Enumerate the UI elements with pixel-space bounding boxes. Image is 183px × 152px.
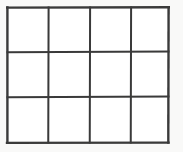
grid-cell	[132, 9, 168, 52]
cell-fill-group	[9, 9, 168, 142]
grid-cell	[50, 98, 90, 142]
grid-cell	[9, 9, 48, 52]
grid-cell	[9, 98, 48, 142]
grid-cell	[50, 9, 90, 52]
grid-cell	[50, 53, 90, 96]
grid-cell	[132, 98, 168, 142]
grid-cell	[91, 98, 130, 142]
grid-drawing	[0, 0, 183, 152]
horizontal-rule	[8, 52, 169, 53]
horizontal-rule	[8, 97, 169, 98]
grid-figure	[0, 0, 183, 152]
grid-cell	[9, 53, 48, 96]
grid-cell	[91, 9, 130, 52]
grid-cell	[132, 53, 168, 96]
grid-cell	[91, 53, 130, 96]
